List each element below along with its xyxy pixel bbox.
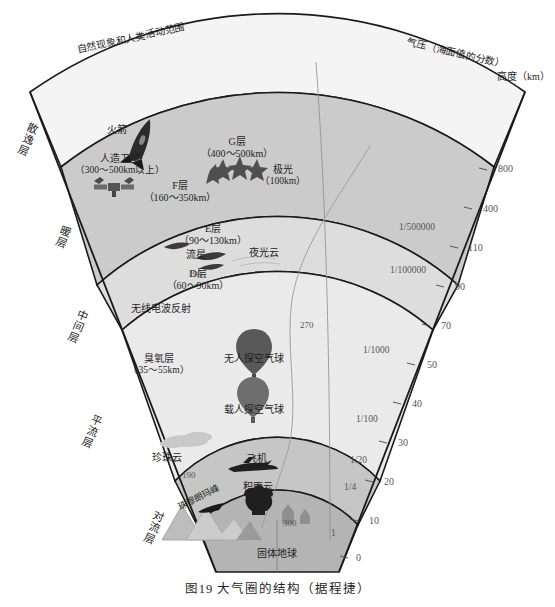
cumulonimbus-label: 积雨云 bbox=[243, 481, 273, 492]
nacreous-cloud-label: 珍珠云 bbox=[152, 452, 182, 463]
atmosphere-structure-figure: 自然现象和人类活动范围 气压（海面值的分数） 高度（km） 散逸层 暖层 中间层… bbox=[0, 0, 555, 607]
unmanned-balloon-label: 无人探空气球 bbox=[224, 353, 284, 364]
airplane-label: 飞机 bbox=[247, 453, 267, 464]
height-tick-40: 40 bbox=[412, 398, 422, 409]
height-tick-50: 50 bbox=[427, 359, 437, 370]
satellite-label: 人造卫星 bbox=[100, 153, 140, 164]
pressure-tick-1-100000: 1/100000 bbox=[390, 265, 426, 276]
pressure-tick-1-20: 1/20 bbox=[350, 455, 367, 466]
height-tick-10: 10 bbox=[369, 515, 379, 526]
temp-mark-190-upper: 190 bbox=[188, 269, 202, 279]
manned-balloon-label: 载人探空气球 bbox=[224, 404, 284, 415]
aurora-label: 极光 bbox=[273, 164, 293, 175]
height-tick-400: 400 bbox=[483, 203, 498, 214]
temp-mark-190-lower: 190 bbox=[182, 470, 196, 480]
height-tick-90: 90 bbox=[455, 281, 465, 292]
figure-caption: 图19 大气圈的结构（据程捷） bbox=[185, 582, 372, 596]
g-layer-label: G层 bbox=[228, 136, 245, 147]
pressure-tick-1-500000: 1/500000 bbox=[399, 222, 435, 233]
height-tick-70: 70 bbox=[441, 320, 451, 331]
height-tick-20: 20 bbox=[384, 476, 394, 487]
solid-earth-label: 固体地球 bbox=[257, 548, 297, 559]
pressure-tick-1-100: 1/100 bbox=[356, 414, 378, 425]
noctilucent-cloud-label: 夜光云 bbox=[249, 247, 279, 258]
radio-reflection-label: 无线电波反射 bbox=[131, 303, 191, 314]
e-layer-label: E层 bbox=[205, 223, 221, 234]
height-tick-30: 30 bbox=[398, 437, 408, 448]
ozone-layer-label: 臭氧层 bbox=[144, 353, 174, 364]
pressure-tick-1-4: 1/4 bbox=[344, 482, 356, 493]
f-layer-range: （160～350km） bbox=[144, 192, 217, 203]
meteor-label: 流星 bbox=[186, 249, 206, 260]
satellite-range: （300～500km以上） bbox=[75, 165, 166, 176]
height-tick-110: 110 bbox=[468, 242, 483, 253]
g-layer-range: （400～500km） bbox=[201, 148, 274, 159]
ozone-layer-range: （35～55km） bbox=[128, 365, 189, 376]
f-layer-label: F层 bbox=[172, 180, 188, 191]
e-layer-range: （90～130km） bbox=[179, 235, 247, 246]
rocket-label: 火箭 bbox=[107, 124, 127, 135]
temp-mark-270: 270 bbox=[300, 320, 314, 330]
aurora-range: （100km） bbox=[260, 176, 306, 187]
height-tick-0: 0 bbox=[356, 552, 361, 563]
height-axis-title: 高度（km） bbox=[497, 71, 550, 82]
atmosphere-bands bbox=[30, 14, 525, 572]
pressure-tick-1: 1 bbox=[331, 528, 336, 539]
pressure-tick-1-1000: 1/1000 bbox=[363, 345, 389, 356]
temp-mark-300: 300 bbox=[283, 518, 297, 528]
d-layer-range: （60～90km） bbox=[167, 280, 230, 291]
height-tick-800: 800 bbox=[498, 163, 513, 174]
diagram-canvas bbox=[0, 0, 555, 607]
